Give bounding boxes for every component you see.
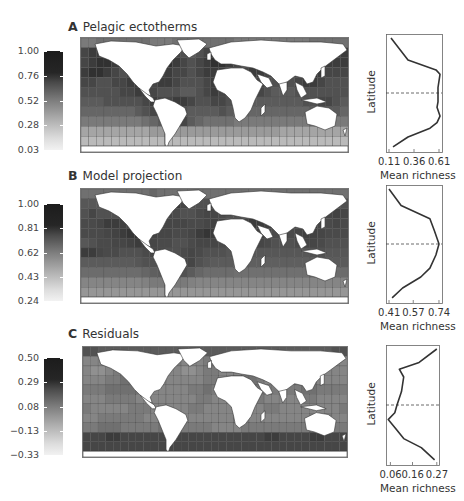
colorbar-tick-label: −0.33	[1, 449, 39, 460]
map-b	[80, 188, 349, 304]
profile-xlabel: Mean richness	[380, 320, 456, 332]
profile-xlabel: Mean richness	[380, 482, 456, 494]
colorbar-tick-label: −0.13	[1, 425, 39, 436]
landmass	[320, 374, 324, 386]
colorbar-tick-mark	[60, 101, 63, 102]
colorbar-tick-mark	[60, 407, 63, 408]
colorbar-tick-mark	[60, 382, 63, 383]
profile-xtick-label: 0.06	[379, 469, 401, 480]
profile-xtick-label: 0.27	[426, 469, 448, 480]
colorbar-tick-label: 0.24	[1, 295, 39, 306]
panel-b-title-text: Model projection	[83, 169, 183, 183]
colorbar-tick-label: 0.08	[1, 401, 39, 412]
colorbar-tick-mark	[44, 76, 47, 77]
colorbar-tick-mark	[44, 431, 47, 432]
panel-c-title-text: Residuals	[82, 327, 139, 341]
colorbar-tick-mark	[60, 204, 63, 205]
profile-xtick-label: 0.74	[428, 307, 450, 318]
panel-c-letter: C	[68, 326, 77, 341]
profile-xtick-label: 0.16	[402, 469, 424, 480]
profile-xlabel: Mean richness	[380, 169, 456, 181]
colorbar-tick-label: 0.76	[1, 70, 39, 81]
world-map-grid	[81, 38, 348, 152]
colorbar-tick-mark	[44, 382, 47, 383]
colorbar-tick-mark	[60, 125, 63, 126]
colorbar-tick-mark	[60, 51, 63, 52]
colorbar-tick-label: 1.00	[1, 45, 39, 56]
colorbar-tick-label: 0.29	[1, 376, 39, 387]
profile-xtick-label: 0.57	[402, 307, 424, 318]
landmass	[83, 451, 347, 457]
colorbar-tick-mark	[44, 358, 47, 359]
panel-a-title: APelagic ectotherms	[68, 19, 197, 34]
profile-xtick-label: 0.41	[378, 307, 400, 318]
profile-xtick-label: 0.11	[378, 156, 400, 167]
world-map-grid	[81, 189, 348, 303]
colorbar-tick-label: 0.28	[1, 119, 39, 130]
colorbar-tick-mark	[44, 407, 47, 408]
colorbar-tick-mark	[44, 125, 47, 126]
landmass	[81, 146, 348, 152]
profile-ylabel: Latitude	[365, 218, 377, 268]
colorbar-tick-label: 0.62	[1, 247, 39, 258]
colorbar-tick-label: 0.43	[1, 271, 39, 282]
colorbar-tick-mark	[60, 277, 63, 278]
colorbar-tick-mark	[60, 431, 63, 432]
panel-b-letter: B	[68, 168, 78, 183]
colorbar-tick-mark	[60, 76, 63, 77]
landmass	[321, 217, 325, 229]
landmass	[81, 297, 348, 303]
profile-ylabel: Latitude	[365, 379, 377, 429]
colorbar-tick-mark	[44, 228, 47, 229]
panel-b-title: BModel projection	[68, 168, 182, 183]
map-a	[80, 37, 349, 153]
colorbar-tick-label: 0.52	[1, 95, 39, 106]
colorbar-tick-label: 0.03	[1, 144, 39, 155]
panel-a-title-text: Pelagic ectotherms	[83, 20, 198, 34]
map-c	[82, 346, 348, 458]
landmass	[321, 66, 325, 78]
profile-xtick-label: 0.36	[403, 156, 425, 167]
colorbar-tick-label: 0.50	[1, 352, 39, 363]
colorbar-tick-mark	[60, 253, 63, 254]
profile-ylabel: Latitude	[365, 67, 377, 117]
colorbar-tick-label: 0.81	[1, 222, 39, 233]
world-map-grid	[83, 347, 347, 457]
colorbar-tick-mark	[44, 51, 47, 52]
panel-a-letter: A	[68, 19, 78, 34]
profile-xtick-label: 0.61	[428, 156, 450, 167]
colorbar-tick-mark	[44, 277, 47, 278]
colorbar-tick-mark	[60, 228, 63, 229]
colorbar-tick-mark	[44, 101, 47, 102]
colorbar-tick-mark	[44, 204, 47, 205]
colorbar-tick-mark	[44, 253, 47, 254]
panel-c-title: CResiduals	[68, 326, 139, 341]
colorbar-tick-label: 1.00	[1, 198, 39, 209]
colorbar-tick-mark	[60, 358, 63, 359]
